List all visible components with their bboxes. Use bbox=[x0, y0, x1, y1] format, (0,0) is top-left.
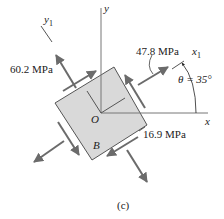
diagram-graphics bbox=[0, 0, 224, 219]
arrow-y1-top bbox=[56, 55, 76, 88]
y1-sub: 1 bbox=[49, 19, 53, 28]
origin-label: O bbox=[91, 114, 99, 125]
x1-sub: 1 bbox=[197, 51, 201, 60]
stress-element-diagram: y y1 60.2 MPa 47.8 MPa x1 θ = 35° x O 16… bbox=[0, 0, 224, 219]
stress-x1-label: 47.8 MPa bbox=[136, 46, 179, 57]
point-b-label: B bbox=[93, 140, 100, 151]
y1-axis-label: y1 bbox=[44, 14, 53, 28]
stress-shear-label: 16.9 MPa bbox=[143, 129, 186, 140]
x1-axis-label: x1 bbox=[192, 46, 201, 60]
x1-axis-ext bbox=[172, 61, 184, 69]
stress-y1-label: 60.2 MPa bbox=[10, 64, 53, 75]
leader-47-8 bbox=[149, 55, 153, 74]
arrow-x1-left bbox=[34, 141, 64, 162]
y1-axis-ext bbox=[41, 26, 52, 42]
y-axis-label: y bbox=[104, 3, 109, 14]
arrow-y1-bottom bbox=[127, 150, 147, 182]
theta-arc bbox=[182, 63, 196, 113]
x-axis-label: x bbox=[205, 116, 210, 127]
angle-label: θ = 35° bbox=[178, 74, 212, 85]
figure-caption: (c) bbox=[117, 200, 129, 211]
arrow-x1-right bbox=[138, 67, 168, 85]
